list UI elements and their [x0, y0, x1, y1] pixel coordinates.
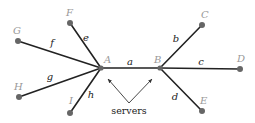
node-label-c: C [201, 9, 209, 20]
edge-label-a: a [127, 56, 133, 67]
node-label-d: D [236, 53, 245, 64]
edge-e [70, 23, 101, 68]
node-label-h: H [13, 81, 23, 92]
node-label-f: F [65, 7, 74, 18]
edge-label-c: c [198, 56, 204, 67]
servers-label: servers [111, 105, 147, 116]
node-i [67, 110, 73, 116]
edge-label-e: e [83, 32, 89, 43]
network-diagram: abcdefghABCDEFGHI servers [0, 0, 255, 123]
labels-group: abcdefghABCDEFGHI [13, 7, 245, 106]
edge-c [160, 68, 240, 69]
node-label-g: G [13, 25, 21, 36]
node-label-e: E [199, 95, 208, 106]
edge-d [160, 68, 202, 111]
edge-label-f: f [49, 37, 56, 48]
servers-annotation: servers [108, 79, 152, 116]
edge-label-h: h [88, 89, 94, 100]
edge-f [18, 41, 101, 68]
edge-label-b: b [173, 33, 179, 44]
node-f [67, 20, 73, 26]
arrow-to-server-b [129, 79, 152, 103]
node-label-a: A [103, 54, 111, 65]
node-label-i: I [68, 95, 74, 106]
edge-label-g: g [47, 71, 53, 82]
edge-h [70, 68, 101, 113]
node-e [199, 108, 205, 114]
node-c [199, 22, 205, 28]
node-b [157, 65, 162, 70]
node-h [16, 94, 22, 100]
edge-b [160, 25, 202, 68]
arrow-to-server-a [108, 79, 129, 103]
node-d [237, 66, 243, 72]
node-label-b: B [153, 54, 161, 65]
node-a [98, 65, 103, 70]
edge-label-d: d [172, 91, 178, 102]
node-g [15, 38, 21, 44]
